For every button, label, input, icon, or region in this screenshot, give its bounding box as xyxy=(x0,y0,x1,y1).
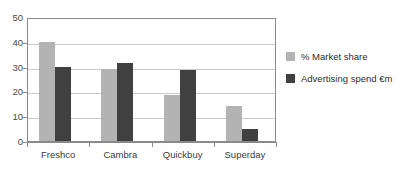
bar-quickbuy-series-2 xyxy=(180,70,196,141)
x-axis-category-label: Freshco xyxy=(27,150,89,160)
y-axis-tick-mark xyxy=(23,117,28,118)
y-axis-tick-label: 40 xyxy=(12,38,23,48)
bar-freshco-series-1 xyxy=(39,42,55,141)
y-axis-tick-label: 20 xyxy=(12,87,23,97)
y-axis-tick-label: 50 xyxy=(12,13,23,23)
x-axis-tick-mark xyxy=(89,142,90,147)
x-axis-tick-mark xyxy=(27,142,28,147)
gridline xyxy=(28,44,275,45)
bar-cambra-series-2 xyxy=(117,63,133,141)
y-axis-tick-mark xyxy=(23,92,28,93)
legend-swatch-icon xyxy=(286,52,295,61)
legend-item: % Market share xyxy=(286,52,394,62)
x-axis-tick-mark xyxy=(152,142,153,147)
x-axis-tick-mark xyxy=(214,142,215,147)
legend-item: Advertising spend €m xyxy=(286,74,394,84)
legend-item-label: % Market share xyxy=(301,52,368,62)
legend-item-label: Advertising spend €m xyxy=(301,74,392,84)
bar-freshco-series-2 xyxy=(55,67,71,141)
bar-cambra-series-1 xyxy=(101,69,117,141)
y-axis-labels: 01020304050 xyxy=(0,0,23,169)
x-axis-line xyxy=(23,142,277,143)
plot-area xyxy=(27,18,276,142)
bar-chart: 01020304050 FreshcoCambraQuickbuySuperda… xyxy=(0,0,397,169)
chart-legend: % Market shareAdvertising spend €m xyxy=(286,52,394,95)
legend-swatch-icon xyxy=(286,74,295,83)
bar-superday-series-2 xyxy=(242,129,258,141)
bar-quickbuy-series-1 xyxy=(164,95,180,141)
x-axis-category-label: Cambra xyxy=(89,150,151,160)
bar-superday-series-1 xyxy=(226,106,242,141)
y-axis-tick-mark xyxy=(23,68,28,69)
y-axis-line xyxy=(27,18,28,143)
x-axis-category-label: Quickbuy xyxy=(152,150,214,160)
x-axis-category-label: Superday xyxy=(214,150,276,160)
x-axis-tick-mark xyxy=(276,142,277,147)
y-axis-tick-label: 30 xyxy=(12,63,23,73)
y-axis-tick-label: 10 xyxy=(12,112,23,122)
y-axis-tick-mark xyxy=(23,43,28,44)
